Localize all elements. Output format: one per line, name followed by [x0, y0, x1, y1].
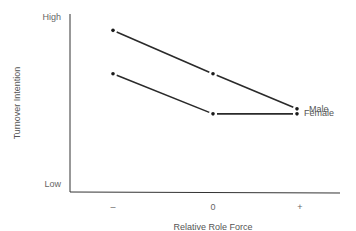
chart: High Low Turnover Intention – 0 + Relati… — [0, 0, 356, 231]
series-label-female: Female — [304, 108, 334, 118]
data-point — [111, 72, 115, 76]
data-point — [211, 72, 215, 76]
x-axis — [70, 192, 340, 193]
x-tick-plus: + — [297, 202, 302, 212]
series-segment — [117, 75, 210, 112]
y-tick-high: High — [42, 12, 61, 22]
data-point — [295, 107, 299, 111]
y-axis-label: Turnover Intention — [12, 67, 22, 140]
series-male — [111, 29, 299, 111]
x-tick-zero: 0 — [210, 202, 215, 212]
data-point — [111, 29, 115, 33]
x-axis-label: Relative Role Force — [173, 222, 252, 231]
series-segment — [117, 32, 210, 72]
x-tick-minus: – — [110, 202, 115, 212]
data-point — [211, 112, 215, 116]
y-tick-low: Low — [44, 179, 61, 189]
series-female — [111, 72, 299, 116]
series-segment — [217, 75, 294, 107]
data-point — [295, 112, 299, 116]
